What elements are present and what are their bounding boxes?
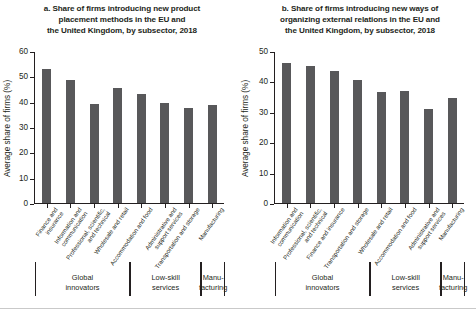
y-tick-label-a-40: 40 — [19, 99, 28, 107]
bar[interactable] — [160, 103, 169, 203]
bar[interactable] — [42, 69, 51, 203]
group-bracket: Globalinnovators — [275, 262, 370, 296]
y-axis-title-a: Average share of firms (%) — [2, 52, 14, 204]
y-tick-b-10 — [270, 174, 274, 175]
y-tick-a-60 — [30, 52, 34, 53]
y-tick-a-50 — [30, 77, 34, 78]
y-tick-label-a-50: 50 — [19, 73, 28, 81]
y-tick-a-20 — [30, 153, 34, 154]
chart-panel-b: b. Share of firms introducing new ways o… — [238, 0, 476, 315]
x-axis-label: Transportation and storage — [322, 206, 370, 270]
group-brackets-b: GlobalinnovatorsLow-skillservicesManu-fa… — [275, 262, 465, 296]
group-bracket: Globalinnovators — [35, 262, 130, 296]
y-tick-label-b-10: 10 — [259, 169, 268, 177]
bar[interactable] — [282, 63, 291, 203]
bar-cell — [59, 52, 83, 203]
group-bracket: Low-skillservices — [370, 262, 441, 296]
chart-panel-a: a. Share of firms introducing new produc… — [0, 0, 238, 315]
group-bracket-label: Low-skillservices — [391, 273, 419, 292]
chart-title-b-line1: b. Share of firms introducing new ways o… — [252, 4, 468, 15]
bar-cell — [153, 52, 177, 203]
plot-area-a: 0102030405060 — [34, 52, 224, 204]
bar-cell — [417, 52, 441, 203]
chart-title-a-line2: placement methods in the EU and — [14, 15, 230, 26]
bar[interactable] — [66, 80, 75, 203]
figure-container: a. Share of firms introducing new produc… — [0, 0, 476, 315]
y-tick-label-a-20: 20 — [19, 149, 28, 157]
group-bracket-label: Low-skillservices — [151, 273, 179, 292]
bar-cell — [82, 52, 106, 203]
y-tick-b-50 — [270, 52, 274, 53]
bar-cell — [440, 52, 464, 203]
y-tick-a-30 — [30, 128, 34, 129]
y-tick-b-0 — [270, 204, 274, 205]
y-tick-label-b-20: 20 — [259, 139, 268, 147]
y-tick-a-40 — [30, 103, 34, 104]
y-tick-label-b-30: 30 — [259, 109, 268, 117]
bar-cell — [370, 52, 394, 203]
x-axis-label: Manufacturing — [197, 206, 225, 242]
bar-cell — [130, 52, 154, 203]
y-tick-label-b-40: 40 — [259, 78, 268, 86]
bar-cell — [35, 52, 59, 203]
x-axis-labels-a: Finance andinsuranceInformation andcommu… — [35, 206, 225, 262]
group-brackets-a: GlobalinnovatorsLow-skillservicesManu-fa… — [35, 262, 225, 296]
bar[interactable] — [353, 80, 362, 203]
x-axis-label: Accommodation and food — [372, 206, 418, 267]
y-tick-b-40 — [270, 82, 274, 83]
chart-title-a-line1: a. Share of firms introducing new produc… — [14, 4, 230, 15]
footer-rule — [0, 308, 476, 309]
bar-cell — [106, 52, 130, 203]
y-tick-label-a-30: 30 — [19, 124, 28, 132]
bar-series-b — [275, 52, 464, 203]
y-tick-b-20 — [270, 143, 274, 144]
group-bracket-label: Globalinnovators — [65, 273, 99, 292]
y-tick-b-30 — [270, 113, 274, 114]
bar-cell — [346, 52, 370, 203]
bar[interactable] — [184, 108, 193, 203]
x-axis-labels-b: Information andcommunicationProfessional… — [275, 206, 465, 262]
bar-cell — [393, 52, 417, 203]
bar[interactable] — [330, 71, 339, 203]
y-tick-label-a-0: 0 — [23, 200, 28, 208]
chart-title-b-line2: organizing external relations in the EU … — [252, 15, 468, 26]
bar[interactable] — [400, 91, 409, 203]
bar[interactable] — [137, 94, 146, 203]
y-axis-title-b: Average share of firms (%) — [240, 52, 252, 204]
bar[interactable] — [208, 105, 217, 203]
bar[interactable] — [90, 104, 99, 203]
group-bracket-label: Manu-facturing — [439, 273, 467, 292]
y-tick-label-b-0: 0 — [263, 200, 268, 208]
y-tick-label-b-50: 50 — [259, 48, 268, 56]
bar[interactable] — [377, 92, 386, 203]
group-bracket: Manu-facturing — [201, 262, 225, 296]
bar[interactable] — [306, 66, 315, 203]
bar[interactable] — [448, 98, 457, 203]
chart-title-a-line3: the United Kingdom, by subsector, 2018 — [14, 26, 230, 37]
bar-cell — [275, 52, 299, 203]
group-bracket: Manu-facturing — [441, 262, 465, 296]
chart-title-b: b. Share of firms introducing new ways o… — [252, 4, 468, 36]
bar[interactable] — [113, 88, 122, 203]
bar-cell — [322, 52, 346, 203]
y-tick-label-a-60: 60 — [19, 48, 28, 56]
y-tick-a-10 — [30, 179, 34, 180]
bar-cell — [200, 52, 224, 203]
x-axis-label: Accommodation and food — [108, 206, 154, 267]
group-bracket: Low-skillservices — [130, 262, 201, 296]
group-bracket-label: Globalinnovators — [305, 273, 339, 292]
group-bracket-label: Manu-facturing — [199, 273, 227, 292]
y-tick-a-0 — [30, 204, 34, 205]
plot-area-b: 01020304050 — [274, 52, 464, 204]
bar-cell — [299, 52, 323, 203]
bar[interactable] — [424, 109, 433, 203]
chart-title-b-line3: the United Kingdom, by subsector, 2018 — [252, 26, 468, 37]
y-tick-label-a-10: 10 — [19, 175, 28, 183]
bar-series-a — [35, 52, 224, 203]
bar-cell — [177, 52, 201, 203]
chart-title-a: a. Share of firms introducing new produc… — [14, 4, 230, 36]
